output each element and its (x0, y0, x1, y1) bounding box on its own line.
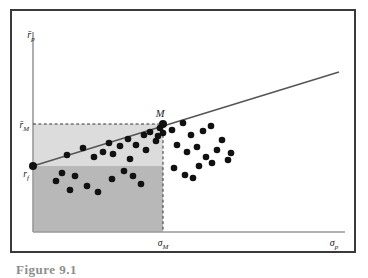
figure-frame (10, 9, 356, 253)
figure-caption: Figure 9.1 (16, 262, 77, 278)
